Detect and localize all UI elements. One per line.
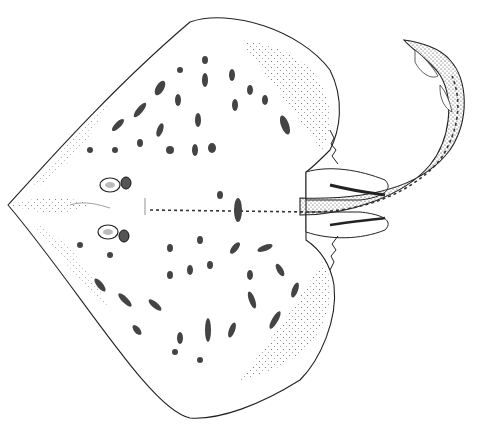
disc <box>8 18 339 418</box>
skate-illustration <box>0 0 481 426</box>
skate-drawing <box>0 0 481 426</box>
